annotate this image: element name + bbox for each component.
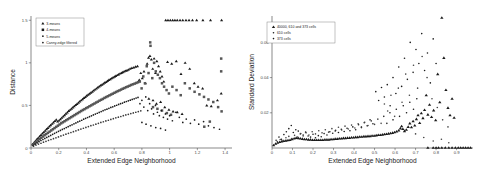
x-tick-label: 0.2: [56, 150, 62, 155]
series-5-means: [32, 96, 220, 146]
y-tick-label: 0.5: [22, 103, 28, 108]
data-point-triangle: [440, 16, 443, 19]
series-610-cells: [275, 33, 437, 141]
data-point-dot: [208, 125, 210, 127]
data-point-triangle: [55, 118, 58, 120]
data-point-dot: [108, 119, 110, 121]
data-point-dot: [437, 107, 439, 109]
data-point-triangle: [159, 70, 162, 72]
data-point-dot: [118, 104, 120, 106]
data-point-triangle: [438, 101, 441, 104]
data-point-square: [193, 91, 196, 94]
data-point-dot: [91, 115, 93, 117]
data-point-dot: [288, 136, 290, 138]
data-point-dot: [320, 136, 322, 138]
data-point-triangle: [447, 146, 450, 149]
data-point-dot: [135, 111, 137, 113]
data-point-square: [203, 125, 206, 128]
data-point-dot: [338, 126, 340, 128]
data-point-square: [144, 82, 147, 85]
data-point-triangle: [166, 61, 169, 63]
y-tick-label: 0.02: [260, 110, 269, 115]
data-point-dot: [401, 101, 403, 103]
data-point-square: [145, 65, 148, 68]
data-point-dot: [282, 140, 284, 142]
data-point-dot: [127, 100, 129, 102]
data-point-dot: [58, 130, 60, 132]
data-point-dot: [42, 42, 44, 44]
data-point-dot: [70, 132, 72, 134]
data-point-dot: [409, 42, 411, 44]
data-point-dot: [135, 97, 137, 99]
data-point-triangle: [407, 125, 410, 128]
data-point-dot: [133, 98, 135, 100]
data-point-dot: [344, 125, 346, 127]
data-point-dot: [126, 101, 128, 103]
data-point-dot: [275, 139, 277, 141]
data-point-dot: [93, 114, 95, 116]
data-point-dot: [83, 118, 85, 120]
data-point-dot: [178, 116, 180, 118]
data-point-dot: [415, 49, 417, 51]
data-point-triangle: [426, 146, 429, 149]
data-point-dot: [38, 143, 40, 145]
data-point-dot: [381, 87, 383, 89]
x-tick-label: 0.9: [454, 150, 460, 155]
data-point-dot: [409, 101, 411, 103]
data-point-dot: [312, 133, 314, 135]
data-point-square: [139, 80, 142, 83]
data-point-triangle: [195, 19, 198, 21]
x-tick-label: 0.1: [290, 150, 296, 155]
data-point-dot: [139, 103, 141, 105]
data-point-dot: [151, 108, 153, 110]
data-point-square: [220, 57, 223, 60]
data-point-triangle: [155, 60, 158, 62]
data-point-triangle: [193, 82, 196, 84]
data-point-dot: [369, 119, 371, 121]
data-point-dot: [334, 130, 336, 132]
data-point-dot: [332, 132, 334, 134]
data-point-square: [220, 110, 223, 113]
data-point-dot: [416, 98, 418, 100]
data-point-dot: [80, 128, 82, 130]
data-point-triangle: [416, 114, 419, 117]
data-point-dot: [63, 128, 65, 130]
data-point-dot: [117, 116, 119, 118]
data-point-triangle: [167, 108, 170, 110]
data-point-dot: [96, 112, 98, 114]
data-point-dot: [302, 135, 304, 137]
data-point-triangle: [415, 118, 418, 121]
data-point-triangle: [408, 122, 411, 125]
legend-item-label: 4-means: [46, 28, 60, 32]
data-point-dot: [415, 133, 417, 135]
data-point-dot: [48, 136, 50, 138]
data-point-dot: [48, 139, 50, 141]
data-point-dot: [203, 121, 205, 123]
x-tick-label: 0.7: [413, 150, 419, 155]
x-tick-label: 0.5: [372, 150, 378, 155]
data-point-dot: [219, 128, 221, 130]
data-point-dot: [125, 114, 127, 116]
legend: 3-means4-means5-meansCanny-edge filtered: [36, 18, 84, 46]
x-axis-title: Extended Edge Neighborhood: [328, 157, 417, 165]
data-point-square: [171, 85, 174, 88]
data-point-triangle: [444, 146, 447, 149]
data-point-triangle: [136, 65, 139, 67]
data-point-dot: [160, 128, 162, 130]
data-point-triangle: [428, 103, 431, 106]
data-point-dot: [115, 117, 117, 119]
data-point-dot: [73, 131, 75, 133]
data-point-triangle: [400, 125, 403, 128]
x-tick-label: 0.8: [139, 150, 145, 155]
data-point-dot: [299, 133, 301, 135]
data-point-dot: [114, 105, 116, 107]
data-point-dot: [87, 117, 89, 119]
y-tick-label: 1: [25, 60, 28, 65]
data-point-dot: [83, 127, 85, 129]
data-point-dot: [364, 121, 366, 123]
data-point-dot: [65, 133, 67, 135]
data-point-dot: [94, 113, 96, 115]
x-tick-label: 0.4: [351, 150, 357, 155]
data-point-dot: [35, 144, 37, 146]
data-point-triangle: [205, 104, 208, 106]
